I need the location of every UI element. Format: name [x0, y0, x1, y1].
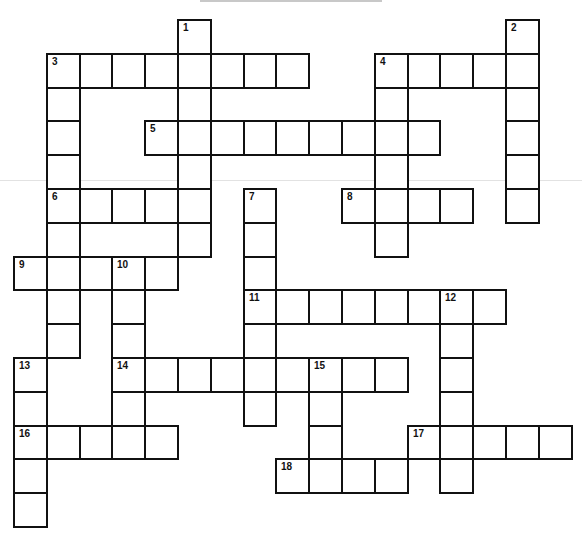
- crossword-cell[interactable]: [210, 120, 245, 156]
- crossword-cell[interactable]: [374, 120, 409, 156]
- crossword-cell[interactable]: [111, 53, 146, 89]
- crossword-cell[interactable]: [177, 53, 212, 89]
- crossword-cell[interactable]: [308, 289, 343, 325]
- crossword-cell[interactable]: [439, 357, 474, 393]
- crossword-cell[interactable]: 16: [13, 425, 48, 460]
- crossword-cell[interactable]: 5: [144, 120, 179, 156]
- crossword-cell[interactable]: [243, 120, 277, 156]
- crossword-cell[interactable]: [374, 87, 409, 122]
- crossword-cell[interactable]: [341, 357, 376, 393]
- crossword-cell[interactable]: [13, 391, 48, 427]
- crossword-cell[interactable]: [275, 53, 310, 89]
- crossword-cell[interactable]: [341, 458, 376, 494]
- crossword-cell[interactable]: [111, 391, 146, 427]
- crossword-cell[interactable]: [46, 87, 81, 122]
- crossword-cell[interactable]: [243, 391, 277, 427]
- crossword-cell[interactable]: [308, 120, 343, 156]
- crossword-cell[interactable]: [374, 222, 409, 258]
- crossword-cell[interactable]: [439, 425, 474, 460]
- crossword-cell[interactable]: [374, 188, 409, 224]
- crossword-cell[interactable]: [177, 357, 212, 393]
- crossword-cell[interactable]: [439, 53, 474, 89]
- crossword-cell[interactable]: [472, 425, 507, 460]
- crossword-cell[interactable]: [505, 425, 540, 460]
- crossword-cell[interactable]: [407, 53, 441, 89]
- crossword-cell[interactable]: [111, 289, 146, 325]
- crossword-cell[interactable]: [210, 357, 245, 393]
- crossword-cell[interactable]: [144, 256, 179, 291]
- crossword-cell[interactable]: [46, 222, 81, 258]
- crossword-cell[interactable]: [46, 256, 81, 291]
- crossword-cell[interactable]: [472, 53, 507, 89]
- crossword-cell[interactable]: [46, 289, 81, 325]
- crossword-cell[interactable]: 17: [407, 425, 441, 460]
- crossword-cell[interactable]: [13, 492, 48, 528]
- crossword-cell[interactable]: 8: [341, 188, 376, 224]
- crossword-cell[interactable]: [243, 323, 277, 359]
- crossword-cell[interactable]: [111, 323, 146, 359]
- crossword-cell[interactable]: 4: [374, 53, 409, 89]
- crossword-cell[interactable]: [505, 120, 540, 156]
- crossword-cell[interactable]: [308, 458, 343, 494]
- crossword-cell[interactable]: [79, 425, 113, 460]
- crossword-cell[interactable]: [341, 120, 376, 156]
- crossword-cell[interactable]: [46, 154, 81, 190]
- crossword-cell[interactable]: [505, 53, 540, 89]
- crossword-cell[interactable]: [472, 289, 507, 325]
- crossword-cell[interactable]: 14: [111, 357, 146, 393]
- crossword-cell[interactable]: [243, 53, 277, 89]
- crossword-cell[interactable]: 18: [275, 458, 310, 494]
- crossword-cell[interactable]: 1: [177, 19, 212, 55]
- crossword-cell[interactable]: [374, 458, 409, 494]
- crossword-cell[interactable]: 6: [46, 188, 81, 224]
- crossword-cell[interactable]: [79, 188, 113, 224]
- crossword-cell[interactable]: [111, 425, 146, 460]
- crossword-cell[interactable]: 15: [308, 357, 343, 393]
- crossword-cell[interactable]: [210, 53, 245, 89]
- crossword-cell[interactable]: [505, 87, 540, 122]
- crossword-cell[interactable]: [46, 323, 81, 359]
- crossword-cell[interactable]: [243, 256, 277, 291]
- crossword-cell[interactable]: 11: [243, 289, 277, 325]
- crossword-cell[interactable]: [111, 188, 146, 224]
- crossword-cell[interactable]: [374, 154, 409, 190]
- crossword-cell[interactable]: [439, 458, 474, 494]
- crossword-cell[interactable]: [177, 120, 212, 156]
- crossword-cell[interactable]: [407, 289, 441, 325]
- crossword-cell[interactable]: [177, 222, 212, 258]
- crossword-cell[interactable]: [407, 120, 441, 156]
- crossword-cell[interactable]: [374, 289, 409, 325]
- crossword-cell[interactable]: 7: [243, 188, 277, 224]
- crossword-cell[interactable]: [13, 458, 48, 494]
- crossword-cell[interactable]: 9: [13, 256, 48, 291]
- crossword-cell[interactable]: [439, 323, 474, 359]
- crossword-cell[interactable]: 13: [13, 357, 48, 393]
- crossword-cell[interactable]: [144, 188, 179, 224]
- crossword-cell[interactable]: [144, 53, 179, 89]
- crossword-cell[interactable]: 12: [439, 289, 474, 325]
- crossword-cell[interactable]: [308, 425, 343, 460]
- crossword-cell[interactable]: [505, 154, 540, 190]
- crossword-cell[interactable]: [79, 53, 113, 89]
- crossword-cell[interactable]: [374, 357, 409, 393]
- crossword-cell[interactable]: 2: [505, 19, 540, 55]
- crossword-cell[interactable]: [505, 188, 540, 224]
- crossword-cell[interactable]: [243, 222, 277, 258]
- crossword-cell[interactable]: [46, 425, 81, 460]
- crossword-cell[interactable]: [243, 357, 277, 393]
- crossword-cell[interactable]: [177, 154, 212, 190]
- crossword-cell[interactable]: [177, 87, 212, 122]
- crossword-cell[interactable]: 10: [111, 256, 146, 291]
- crossword-cell[interactable]: [308, 391, 343, 427]
- crossword-cell[interactable]: [79, 256, 113, 291]
- crossword-cell[interactable]: [275, 289, 310, 325]
- crossword-cell[interactable]: [275, 357, 310, 393]
- crossword-cell[interactable]: [407, 188, 441, 224]
- crossword-cell[interactable]: [341, 289, 376, 325]
- crossword-cell[interactable]: [144, 357, 179, 393]
- crossword-cell[interactable]: [439, 391, 474, 427]
- crossword-cell[interactable]: [177, 188, 212, 224]
- crossword-cell[interactable]: [144, 425, 179, 460]
- crossword-cell[interactable]: [46, 120, 81, 156]
- crossword-cell[interactable]: 3: [46, 53, 81, 89]
